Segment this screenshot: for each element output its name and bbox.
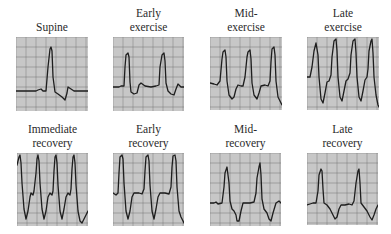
panel-label-early-recovery: Earlyrecovery <box>103 123 195 151</box>
label-line: Late <box>297 7 389 20</box>
label-line: exercise <box>200 21 292 34</box>
ecg-grid-and-trace <box>210 153 281 226</box>
ecg-grid-and-trace <box>210 37 282 110</box>
ecg-grid-and-trace <box>307 37 379 110</box>
panel-label-mid-exercise: Mid-exercise <box>200 7 292 35</box>
panel-label-supine: Supine <box>6 7 98 35</box>
ecg-grid <box>16 37 88 111</box>
label-line: recovery <box>200 137 292 150</box>
label-line: Mid- <box>200 7 292 20</box>
ecg-trace <box>113 53 184 95</box>
panel-label-late-recovery: Laterecovery <box>297 123 389 151</box>
label-line: recovery <box>297 137 389 150</box>
label-line: exercise <box>103 21 195 34</box>
ecg-grid <box>210 153 281 226</box>
label-line: Supine <box>6 21 98 34</box>
label-line: Immediate <box>7 123 99 136</box>
label-line: Mid- <box>200 123 292 136</box>
label-line: Late <box>297 123 389 136</box>
panel-label-immediate-recovery: Immediaterecovery <box>7 123 99 151</box>
panel-label-late-exercise: Lateexercise <box>297 7 389 35</box>
panel-label-early-exercise: Earlyexercise <box>103 7 195 35</box>
ecg-grid-and-trace <box>17 153 88 226</box>
ecg-panel-supine <box>16 37 88 111</box>
ecg-panel-immediate-recovery <box>17 153 88 226</box>
ecg-exercise-figure: SupineEarlyexerciseMid-exerciseLateexerc… <box>0 0 391 234</box>
label-line: recovery <box>103 137 195 150</box>
ecg-panel-late-exercise <box>307 37 379 110</box>
label-line: exercise <box>297 21 389 34</box>
label-line: recovery <box>7 137 99 150</box>
ecg-grid-and-trace <box>113 153 184 226</box>
panel-label-mid-recovery: Mid-recovery <box>200 123 292 151</box>
label-line: Early <box>103 7 195 20</box>
ecg-panel-mid-recovery <box>210 153 281 226</box>
ecg-grid-and-trace <box>307 153 378 225</box>
ecg-panel-mid-exercise <box>210 37 282 110</box>
ecg-panel-early-exercise <box>113 37 184 111</box>
ecg-trace <box>210 163 281 221</box>
ecg-grid <box>113 37 184 111</box>
ecg-grid-and-trace <box>16 37 88 111</box>
ecg-panel-late-recovery <box>307 153 378 225</box>
label-line: Early <box>103 123 195 136</box>
ecg-grid-and-trace <box>113 37 184 111</box>
ecg-panel-early-recovery <box>113 153 184 226</box>
ecg-trace <box>307 169 378 220</box>
